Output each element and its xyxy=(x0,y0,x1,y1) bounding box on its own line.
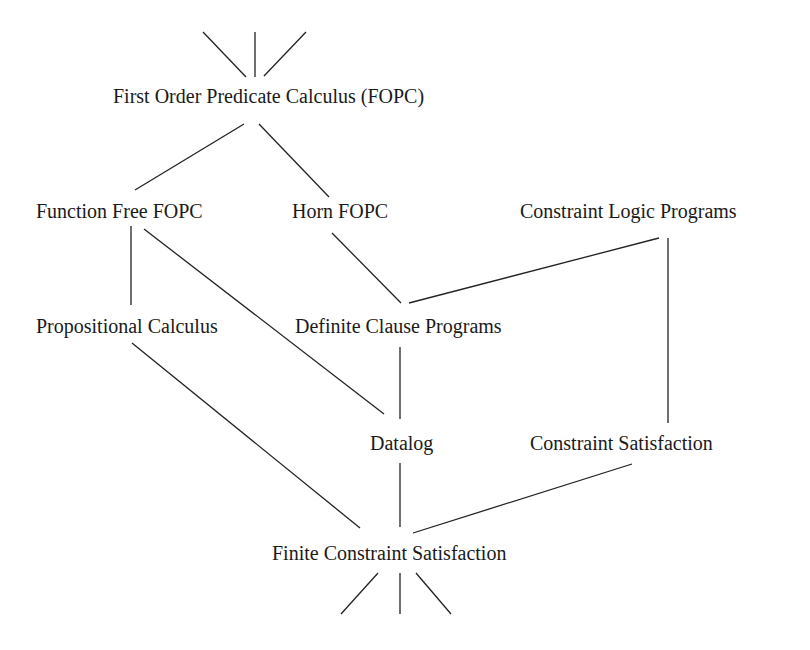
edge-fcs-below xyxy=(341,573,378,614)
edge-horn-dcp xyxy=(332,233,401,303)
node-definite-clause-programs: Definite Clause Programs xyxy=(295,316,502,336)
node-horn-fopc: Horn FOPC xyxy=(292,201,388,221)
edge-cs-fcs xyxy=(413,464,632,533)
edge-clp-dcp xyxy=(409,238,659,303)
logic-hierarchy-diagram: First Order Predicate Calculus (FOPC) Fu… xyxy=(0,0,810,650)
node-finite-constraint-satisfaction: Finite Constraint Satisfaction xyxy=(272,543,506,563)
edge-fopc-horn xyxy=(259,124,329,197)
edge-above-fopc xyxy=(203,32,246,77)
edge-fopc-fffopc xyxy=(135,124,244,190)
node-propositional-calculus: Propositional Calculus xyxy=(36,316,218,336)
node-constraint-satisfaction: Constraint Satisfaction xyxy=(530,433,713,453)
node-constraint-logic-programs: Constraint Logic Programs xyxy=(520,201,737,221)
edge-prop-fcs xyxy=(132,343,360,528)
edge-fcs-below xyxy=(416,573,451,614)
node-datalog: Datalog xyxy=(370,433,433,453)
node-function-free-fopc: Function Free FOPC xyxy=(36,201,203,221)
edge-above-fopc xyxy=(264,32,306,76)
node-fopc: First Order Predicate Calculus (FOPC) xyxy=(113,86,424,106)
